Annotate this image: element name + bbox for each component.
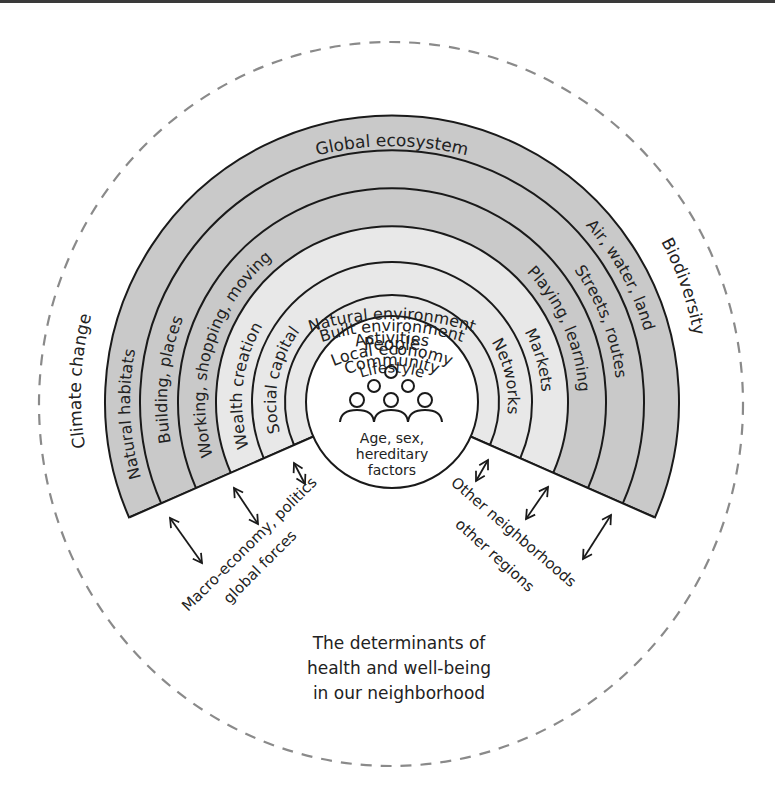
center-line-1: Age, sex,	[360, 430, 424, 446]
health-map-diagram: Natural environment Built environment Ac…	[0, 0, 775, 794]
label-climate-change: Climate change	[65, 311, 95, 450]
center-title-people: People	[364, 334, 420, 354]
center-line-2: hereditary	[356, 446, 428, 462]
center-line-3: factors	[368, 462, 416, 478]
caption-line-3: in our neighborhood	[313, 683, 485, 703]
caption-line-1: The determinants of	[312, 633, 487, 653]
caption-line-2: health and well-being	[307, 658, 491, 678]
